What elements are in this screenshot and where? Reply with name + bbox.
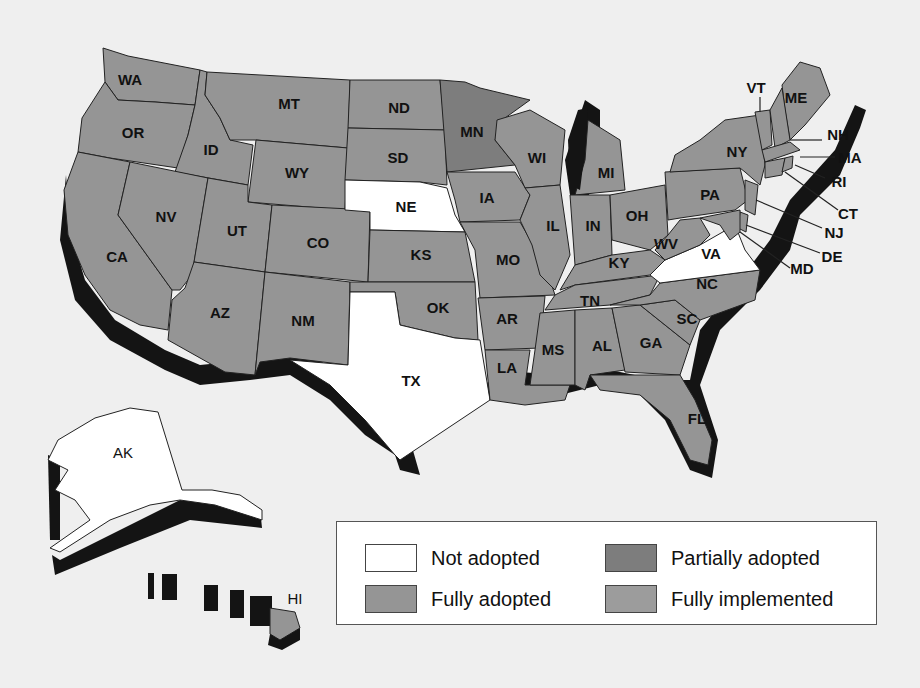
svg-text:WI: WI bbox=[528, 149, 546, 166]
svg-text:ND: ND bbox=[388, 99, 410, 116]
svg-text:RI: RI bbox=[832, 173, 847, 190]
svg-text:VA: VA bbox=[701, 245, 721, 262]
swatch-not-adopted bbox=[365, 544, 417, 572]
svg-text:NV: NV bbox=[156, 208, 177, 225]
svg-text:OH: OH bbox=[626, 207, 649, 224]
svg-text:CA: CA bbox=[106, 248, 128, 265]
svg-text:AR: AR bbox=[496, 310, 518, 327]
svg-text:NY: NY bbox=[727, 143, 748, 160]
svg-text:MO: MO bbox=[496, 251, 520, 268]
hi-island bbox=[250, 596, 272, 626]
svg-text:GA: GA bbox=[640, 334, 663, 351]
legend-item-fully-implemented: Fully implemented bbox=[605, 585, 833, 613]
svg-text:WY: WY bbox=[285, 164, 309, 181]
svg-text:MD: MD bbox=[790, 260, 813, 277]
svg-text:TX: TX bbox=[401, 372, 420, 389]
svg-text:NH: NH bbox=[827, 126, 849, 143]
svg-text:MT: MT bbox=[278, 95, 300, 112]
hi-island bbox=[148, 573, 154, 599]
svg-text:ME: ME bbox=[785, 89, 808, 106]
svg-text:PA: PA bbox=[700, 186, 720, 203]
svg-text:AK: AK bbox=[113, 444, 133, 461]
hawaii bbox=[148, 573, 300, 650]
state-NJ[interactable] bbox=[745, 180, 758, 215]
swatch-partially-adopted bbox=[605, 544, 657, 572]
svg-text:IL: IL bbox=[546, 217, 559, 234]
svg-text:MS: MS bbox=[542, 341, 565, 358]
svg-text:UT: UT bbox=[227, 222, 247, 239]
svg-text:IA: IA bbox=[480, 189, 495, 206]
svg-text:WA: WA bbox=[118, 71, 142, 88]
svg-text:NC: NC bbox=[696, 275, 718, 292]
legend-item-not-adopted: Not adopted bbox=[365, 544, 540, 572]
legend-label: Not adopted bbox=[431, 547, 540, 570]
legend: Not adopted Partially adopted Fully adop… bbox=[336, 521, 877, 625]
svg-text:KY: KY bbox=[609, 254, 630, 271]
svg-text:ID: ID bbox=[204, 141, 219, 158]
legend-item-fully-adopted: Fully adopted bbox=[365, 585, 551, 613]
svg-text:TN: TN bbox=[580, 292, 600, 309]
svg-text:HI: HI bbox=[288, 590, 303, 607]
svg-text:KS: KS bbox=[411, 246, 432, 263]
svg-text:MI: MI bbox=[598, 164, 615, 181]
svg-text:AZ: AZ bbox=[210, 304, 230, 321]
svg-text:MA: MA bbox=[838, 149, 861, 166]
svg-text:CT: CT bbox=[838, 205, 858, 222]
svg-text:WV: WV bbox=[654, 235, 678, 252]
svg-text:OR: OR bbox=[122, 124, 145, 141]
svg-text:DE: DE bbox=[822, 248, 843, 265]
state-CT[interactable] bbox=[765, 158, 785, 178]
swatch-fully-adopted bbox=[365, 585, 417, 613]
svg-text:NE: NE bbox=[396, 198, 417, 215]
svg-text:IN: IN bbox=[586, 217, 601, 234]
legend-label: Fully adopted bbox=[431, 588, 551, 611]
svg-text:VT: VT bbox=[746, 79, 765, 96]
svg-text:LA: LA bbox=[497, 359, 517, 376]
svg-text:CO: CO bbox=[307, 234, 330, 251]
svg-text:MN: MN bbox=[460, 123, 483, 140]
svg-text:AL: AL bbox=[592, 337, 612, 354]
svg-text:FL: FL bbox=[688, 410, 706, 427]
svg-text:NJ: NJ bbox=[824, 224, 843, 241]
hi-island bbox=[162, 574, 177, 600]
legend-item-partially-adopted: Partially adopted bbox=[605, 544, 820, 572]
hi-island bbox=[204, 585, 218, 611]
svg-text:NM: NM bbox=[291, 312, 314, 329]
legend-label: Partially adopted bbox=[671, 547, 820, 570]
swatch-fully-implemented bbox=[605, 585, 657, 613]
svg-text:OK: OK bbox=[427, 299, 450, 316]
svg-text:SC: SC bbox=[677, 310, 698, 327]
svg-text:SD: SD bbox=[388, 149, 409, 166]
hi-island bbox=[230, 590, 244, 618]
legend-label: Fully implemented bbox=[671, 588, 833, 611]
